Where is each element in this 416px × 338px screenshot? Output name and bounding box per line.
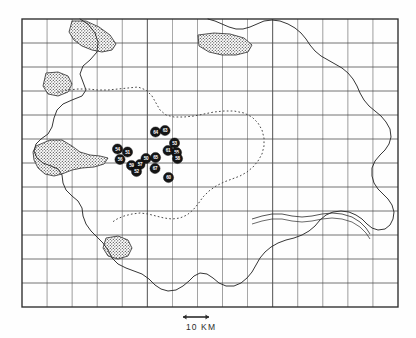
site-marker[interactable]: 67 xyxy=(150,163,160,173)
scale-bar xyxy=(183,314,209,319)
map-canvas: 64635355615854515650655957526760 xyxy=(0,0,416,338)
marker-label: 50 xyxy=(144,156,149,161)
site-marker[interactable]: 58 xyxy=(172,153,182,163)
stipple-north-west xyxy=(69,21,116,52)
site-marker[interactable]: 63 xyxy=(160,125,170,135)
site-marker[interactable]: 54 xyxy=(112,144,122,154)
stipple-west-small xyxy=(43,72,72,96)
site-marker[interactable]: 60 xyxy=(163,172,173,182)
marker-label: 63 xyxy=(163,128,168,133)
site-marker[interactable]: 61 xyxy=(163,145,173,155)
site-marker[interactable]: 51 xyxy=(122,147,132,157)
scale-bar-label: 10 KM xyxy=(186,322,216,332)
stipple-west-large xyxy=(33,140,108,176)
site-marker[interactable]: 65 xyxy=(150,152,160,162)
site-marker[interactable]: 52 xyxy=(131,166,141,176)
marker-label: 57 xyxy=(138,162,143,167)
scale-arrow-right-icon xyxy=(206,314,210,319)
site-marker[interactable]: 56 xyxy=(115,154,125,164)
marker-label: 58 xyxy=(175,156,180,161)
marker-label: 61 xyxy=(166,148,171,153)
marker-label: 56 xyxy=(118,157,123,162)
river-channel-bank xyxy=(252,218,370,239)
site-marker[interactable]: 64 xyxy=(150,127,160,137)
river-channel xyxy=(252,213,370,234)
marker-label: 52 xyxy=(134,169,139,174)
marker-label: 51 xyxy=(125,150,130,155)
marker-label: 54 xyxy=(115,147,120,152)
marker-label: 60 xyxy=(166,175,171,180)
stipple-south xyxy=(103,236,132,259)
stipple-north-east xyxy=(198,33,252,55)
marker-label: 67 xyxy=(153,166,158,171)
marker-label: 64 xyxy=(153,130,158,135)
distribution-map-figure: 64635355615854515650655957526760 10 KM xyxy=(0,0,416,338)
stippled-regions-layer xyxy=(33,21,252,259)
scale-arrow-left-icon xyxy=(183,314,187,319)
marker-label: 65 xyxy=(153,155,158,160)
marker-label: 53 xyxy=(172,141,177,146)
